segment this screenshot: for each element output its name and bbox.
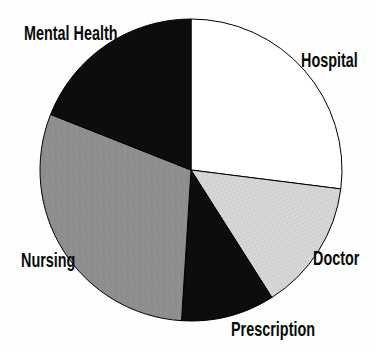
pie-slices: [40, 19, 342, 321]
pie-label-mental-health: Mental Health: [24, 23, 118, 43]
pie-label-prescription: Prescription: [231, 319, 315, 339]
pie-chart-figure: Mental Health Hospital Doctor Nursing Pr…: [0, 0, 375, 352]
pie-label-nursing: Nursing: [21, 250, 75, 270]
pie-slice-hospital: [191, 19, 342, 189]
pie-label-hospital: Hospital: [301, 50, 358, 70]
pie-label-doctor: Doctor: [313, 248, 359, 268]
